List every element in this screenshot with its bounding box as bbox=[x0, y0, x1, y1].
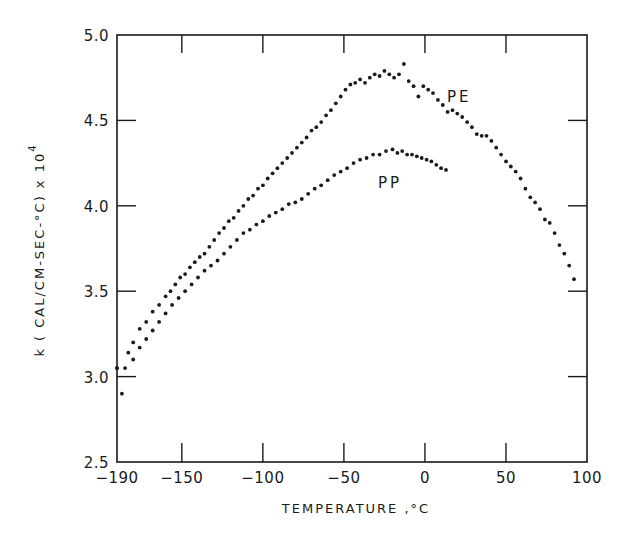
x-tick-label: −150 bbox=[160, 469, 203, 487]
data-point bbox=[553, 231, 557, 235]
data-point bbox=[499, 153, 503, 157]
data-point bbox=[430, 160, 434, 164]
data-point bbox=[475, 132, 479, 136]
data-point bbox=[363, 81, 367, 85]
data-point bbox=[188, 265, 192, 269]
data-point bbox=[415, 154, 419, 158]
data-point bbox=[151, 310, 155, 314]
data-point bbox=[314, 125, 318, 129]
data-point bbox=[562, 252, 566, 256]
data-point bbox=[198, 255, 202, 259]
data-point bbox=[444, 168, 448, 172]
data-point bbox=[400, 149, 404, 153]
data-point bbox=[465, 120, 469, 124]
data-point bbox=[384, 149, 388, 153]
data-point bbox=[183, 272, 187, 276]
data-point bbox=[405, 153, 409, 157]
axis-tick-labels: −190−150−100−500501002.53.03.54.04.55.0 bbox=[84, 27, 602, 487]
data-point bbox=[131, 358, 135, 362]
data-point bbox=[421, 84, 425, 88]
data-point bbox=[232, 216, 236, 220]
data-point bbox=[157, 303, 161, 307]
data-point bbox=[396, 151, 400, 155]
y-axis-title-group: k ( CAL/CM-SEC-°C) x 104 bbox=[27, 143, 47, 356]
data-point bbox=[455, 112, 459, 116]
y-axis-title: k ( CAL/CM-SEC-°C) x 104 bbox=[27, 143, 47, 356]
x-tick-label: −100 bbox=[241, 469, 284, 487]
data-point bbox=[285, 156, 289, 160]
data-point bbox=[334, 101, 338, 105]
data-point bbox=[208, 245, 212, 249]
data-point bbox=[313, 187, 317, 191]
data-point bbox=[216, 259, 220, 263]
data-point bbox=[295, 146, 299, 150]
data-point bbox=[120, 392, 124, 396]
data-point bbox=[567, 264, 571, 268]
data-point bbox=[378, 153, 382, 157]
data-point bbox=[451, 108, 455, 112]
y-tick-label: 4.0 bbox=[84, 198, 109, 216]
data-point bbox=[358, 78, 362, 82]
data-point bbox=[383, 69, 387, 73]
data-point bbox=[203, 252, 207, 256]
data-point bbox=[227, 219, 231, 223]
data-point bbox=[533, 201, 537, 205]
data-point bbox=[528, 195, 532, 199]
axis-ticks bbox=[117, 35, 587, 462]
x-axis-title: TEMPERATURE ,°C bbox=[281, 501, 430, 516]
plot-border bbox=[117, 35, 587, 462]
data-point bbox=[436, 98, 440, 102]
data-point bbox=[164, 294, 168, 298]
data-point bbox=[543, 218, 547, 222]
data-point bbox=[237, 209, 241, 213]
data-point bbox=[391, 148, 395, 152]
data-point bbox=[392, 76, 396, 80]
thermal-conductivity-chart: −190−150−100−500501002.53.03.54.04.55.0 … bbox=[0, 0, 624, 543]
data-point bbox=[276, 166, 280, 170]
data-point bbox=[251, 194, 255, 198]
y-axis-title-main: k ( CAL/CM-SEC-°C) x 10 bbox=[32, 152, 47, 357]
data-point bbox=[319, 183, 323, 187]
data-point bbox=[326, 178, 330, 182]
data-point bbox=[246, 197, 250, 201]
data-point bbox=[524, 187, 528, 191]
data-point bbox=[235, 238, 239, 242]
data-point bbox=[164, 312, 168, 316]
y-tick-label: 3.5 bbox=[84, 283, 109, 301]
data-point bbox=[519, 177, 523, 181]
data-point bbox=[290, 151, 294, 155]
data-point bbox=[138, 327, 142, 331]
data-point bbox=[417, 95, 421, 99]
data-point bbox=[426, 88, 430, 92]
data-point bbox=[300, 197, 304, 201]
data-point bbox=[280, 161, 284, 165]
data-point bbox=[310, 129, 314, 133]
data-point bbox=[177, 296, 181, 300]
data-point bbox=[131, 341, 135, 345]
data-point bbox=[332, 173, 336, 177]
data-point bbox=[344, 88, 348, 92]
data-point bbox=[485, 134, 489, 138]
data-point bbox=[300, 141, 304, 145]
data-point bbox=[538, 207, 542, 211]
data-point bbox=[203, 269, 207, 273]
data-point bbox=[255, 223, 259, 227]
data-point bbox=[305, 136, 309, 140]
series-label-pp: PP bbox=[378, 174, 402, 192]
data-point bbox=[572, 277, 576, 281]
data-point bbox=[190, 283, 194, 287]
data-point bbox=[460, 115, 464, 119]
data-point bbox=[267, 214, 271, 218]
data-point bbox=[126, 351, 130, 355]
data-point bbox=[178, 276, 182, 280]
data-point bbox=[151, 329, 155, 333]
data-point bbox=[514, 170, 518, 174]
data-point bbox=[420, 156, 424, 160]
data-point bbox=[368, 76, 372, 80]
plot-frame bbox=[117, 35, 587, 462]
data-point bbox=[280, 207, 284, 211]
data-point bbox=[222, 226, 226, 230]
data-point bbox=[402, 62, 406, 66]
data-point bbox=[434, 163, 438, 167]
data-point bbox=[144, 337, 148, 341]
